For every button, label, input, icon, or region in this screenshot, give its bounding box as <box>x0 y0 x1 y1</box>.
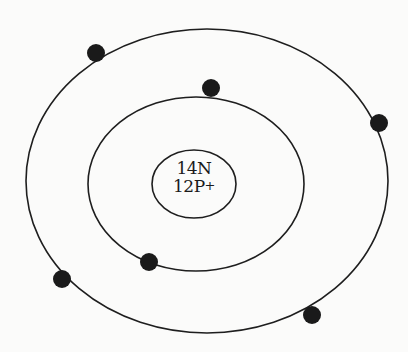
neutrons-label: 14N <box>152 159 236 177</box>
atom-diagram: 14N 12P+ <box>0 0 408 352</box>
electron-4 <box>140 253 158 271</box>
nucleus-label: 14N 12P+ <box>152 159 236 197</box>
electron-2 <box>202 79 220 97</box>
protons-label-line: 12P+ <box>152 177 236 197</box>
protons-label: 12P <box>173 176 205 196</box>
electron-3 <box>370 114 388 132</box>
electron-6 <box>303 306 321 324</box>
electron-5 <box>53 270 71 288</box>
proton-charge: + <box>205 178 215 193</box>
electron-1 <box>87 44 105 62</box>
